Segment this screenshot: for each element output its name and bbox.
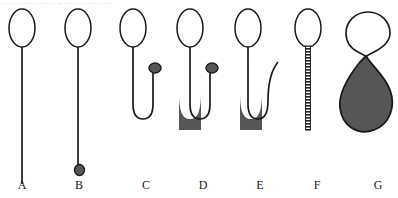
panel-f-glyph	[295, 9, 321, 130]
panel-d-loop	[177, 9, 203, 47]
panel-label-e: E	[248, 178, 272, 192]
panel-g-filled-teardrop	[340, 56, 392, 132]
panel-f-ladder-stem	[306, 46, 311, 130]
panel-c-loop	[120, 9, 146, 47]
panel-e-open-arm	[248, 47, 278, 119]
panel-d-terminal-dot	[206, 63, 218, 73]
panel-b-terminal-dot	[75, 165, 85, 176]
panel-label-c: C	[134, 178, 158, 192]
panel-c-u-tube	[133, 47, 153, 119]
panel-a-loop	[9, 9, 35, 47]
panel-b-glyph	[65, 9, 91, 176]
figure-panel-container: . . . .. . . .. . ... . . . .. . .. . . …	[0, 0, 398, 198]
panel-e-loop	[235, 9, 261, 47]
panel-a-glyph	[9, 9, 35, 184]
panel-b-loop	[65, 9, 91, 47]
panel-g-glyph	[340, 12, 392, 132]
panel-label-b: B	[67, 178, 91, 192]
panel-g-loop	[346, 12, 390, 57]
panel-c-glyph	[120, 9, 161, 119]
panel-label-a: A	[10, 178, 34, 192]
panel-c-terminal-dot	[149, 63, 161, 73]
panel-e-glyph	[235, 9, 278, 133]
panel-d-glyph	[176, 9, 218, 133]
figure-drawing	[0, 0, 398, 198]
panel-label-g: G	[366, 178, 390, 192]
panel-label-d: D	[191, 178, 215, 192]
panel-f-loop	[295, 9, 321, 47]
panel-label-f: F	[305, 178, 329, 192]
panel-e-fill	[236, 89, 266, 133]
